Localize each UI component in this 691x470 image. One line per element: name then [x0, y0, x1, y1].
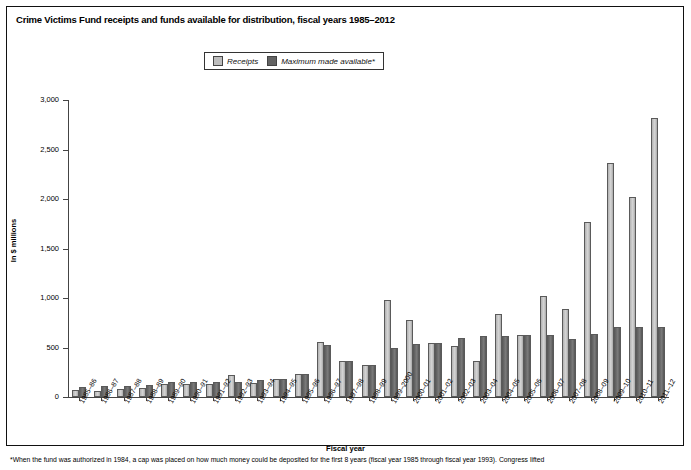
bar-group [424, 100, 446, 397]
legend-label-receipts: Receipts [227, 57, 258, 66]
bar-group [625, 100, 647, 397]
bar-receipts-2005-06[interactable] [517, 335, 524, 397]
y-axis-tick [63, 397, 68, 398]
x-axis-title: Fiscal year [0, 444, 691, 453]
legend-item-maximum-made-available[interactable]: Maximum made available* [267, 56, 375, 66]
bar-group [68, 100, 90, 397]
bar-group [491, 100, 513, 397]
bar-group [536, 100, 558, 397]
bar-group [179, 100, 201, 397]
bar-group [602, 100, 624, 397]
x-axis-labels: 1985–861986–871987–881988–891989–901990–… [68, 399, 669, 443]
bar-group [224, 100, 246, 397]
bar-group [513, 100, 535, 397]
bar-group [469, 100, 491, 397]
bar-receipts-2011-12[interactable] [651, 118, 658, 397]
legend-item-receipts[interactable]: Receipts [213, 56, 258, 66]
bar-group [580, 100, 602, 397]
chart-page: Crime Victims Fund receipts and funds av… [0, 0, 691, 470]
y-axis-tick-label: 0 [19, 392, 59, 401]
bar-group [113, 100, 135, 397]
bar-receipts-2010-11[interactable] [629, 197, 636, 397]
square-swatch-icon [267, 56, 277, 66]
bar-receipts-2009-10[interactable] [607, 163, 614, 397]
y-axis-tick-label: 3,000 [19, 95, 59, 104]
bar-group [90, 100, 112, 397]
bar-group [402, 100, 424, 397]
bar-group [135, 100, 157, 397]
bar-group [447, 100, 469, 397]
page-title: Crime Victims Fund receipts and funds av… [16, 14, 395, 25]
figure-footnote: *When the fund was authorized in 1984, a… [10, 456, 682, 464]
bar-group [246, 100, 268, 397]
bar-group [202, 100, 224, 397]
bar-receipts-1995-96[interactable] [295, 374, 302, 397]
y-axis-tick-label: 1,500 [19, 244, 59, 253]
bar-receipts-2008-09[interactable] [584, 222, 591, 397]
plot-area [68, 100, 669, 397]
bar-group [335, 100, 357, 397]
bar-maximum-2010-11[interactable] [636, 327, 643, 397]
bar-group [647, 100, 669, 397]
chart-legend: Receipts Maximum made available* [204, 52, 384, 70]
y-axis-title: In $ millions [9, 196, 18, 286]
bar-receipts-1996-97[interactable] [317, 342, 324, 397]
bar-group [268, 100, 290, 397]
y-axis-tick-label: 2,000 [19, 194, 59, 203]
bar-receipts-1985-86[interactable] [72, 390, 79, 397]
bar-group [291, 100, 313, 397]
bar-group [357, 100, 379, 397]
bar-receipts-1992-93[interactable] [228, 375, 235, 397]
bar-group [380, 100, 402, 397]
y-axis-tick-label: 500 [19, 343, 59, 352]
bar-receipts-1986-87[interactable] [94, 391, 101, 397]
bar-groups [68, 100, 669, 397]
bar-receipts-1989-90[interactable] [161, 384, 168, 397]
bar-receipts-1991-92[interactable] [206, 384, 213, 397]
bar-receipts-2000-01[interactable] [406, 320, 413, 397]
bar-receipts-1987-88[interactable] [117, 389, 124, 397]
legend-label-maximum-made-available: Maximum made available* [281, 57, 375, 66]
bar-receipts-2001-02[interactable] [428, 343, 435, 397]
bar-group [313, 100, 335, 397]
bar-receipts-1988-89[interactable] [139, 388, 146, 397]
bar-group [558, 100, 580, 397]
y-axis-tick-label: 1,000 [19, 293, 59, 302]
bar-receipts-2002-03[interactable] [451, 346, 458, 397]
square-swatch-icon [213, 56, 223, 66]
bar-group [157, 100, 179, 397]
bar-receipts-1990-91[interactable] [183, 384, 190, 397]
y-axis-tick-label: 2,500 [19, 145, 59, 154]
